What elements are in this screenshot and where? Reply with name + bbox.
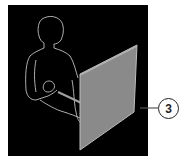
person-outline xyxy=(26,16,80,122)
figure-illustration xyxy=(0,0,186,164)
callout-label: 3 xyxy=(165,102,172,116)
callout-number-badge: 3 xyxy=(158,98,179,119)
